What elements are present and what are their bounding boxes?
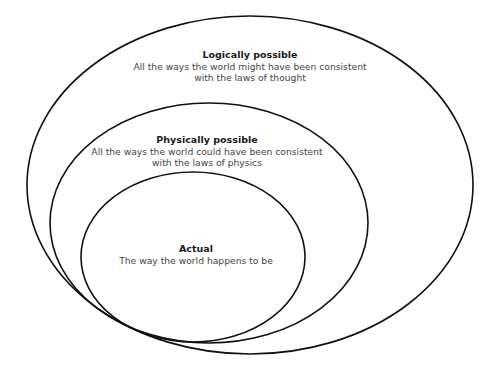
logically-possible-label: Logically possible All the ways the worl… bbox=[133, 49, 367, 83]
physically-possible-label: Physically possible All the ways the wor… bbox=[91, 134, 323, 168]
physically-possible-title: Physically possible bbox=[156, 134, 257, 145]
nested-sets-diagram: Logically possible All the ways the worl… bbox=[0, 0, 501, 375]
logically-possible-title: Logically possible bbox=[202, 49, 297, 60]
actual-label: Actual The way the world happens to be bbox=[118, 243, 273, 266]
actual-title: Actual bbox=[179, 243, 213, 254]
physically-possible-desc-line-2: with the laws of physics bbox=[152, 157, 262, 168]
actual-desc-line-1: The way the world happens to be bbox=[118, 255, 273, 266]
logically-possible-desc-line-1: All the ways the world might have been c… bbox=[133, 61, 367, 72]
logically-possible-desc-line-2: with the laws of thought bbox=[194, 72, 306, 83]
physically-possible-desc-line-1: All the ways the world could have been c… bbox=[91, 146, 323, 157]
